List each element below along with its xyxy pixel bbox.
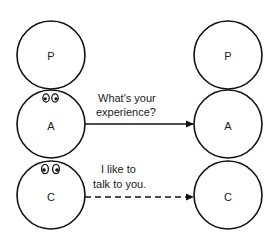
- right-adult-state: A: [194, 90, 262, 158]
- left-child-state: C: [17, 161, 85, 229]
- left-adult-label: A: [47, 120, 55, 132]
- right-child-label: C: [224, 191, 232, 203]
- message-line-1: I like to: [101, 163, 136, 175]
- eyes-icon: [43, 94, 58, 102]
- right-person: P A C: [194, 21, 262, 229]
- transaction-child-to-child: I like to talk to you.: [85, 163, 193, 197]
- message-line-2: talk to you.: [93, 178, 146, 190]
- right-child-state: C: [194, 161, 262, 229]
- left-adult-state: A: [17, 90, 85, 158]
- right-parent-label: P: [224, 50, 231, 62]
- ego-state-diagram: P A C P: [0, 0, 275, 243]
- left-parent-label: P: [47, 50, 54, 62]
- left-person: P A C: [17, 21, 85, 229]
- right-parent-state: P: [194, 21, 262, 89]
- transaction-adult-to-adult: What's your experience?: [85, 92, 193, 124]
- left-parent-state: P: [17, 21, 85, 89]
- right-adult-label: A: [224, 120, 232, 132]
- eyes-icon: [42, 164, 60, 173]
- message-line-2: experience?: [96, 106, 156, 118]
- message-line-1: What's your: [98, 92, 156, 104]
- left-child-label: C: [47, 191, 55, 203]
